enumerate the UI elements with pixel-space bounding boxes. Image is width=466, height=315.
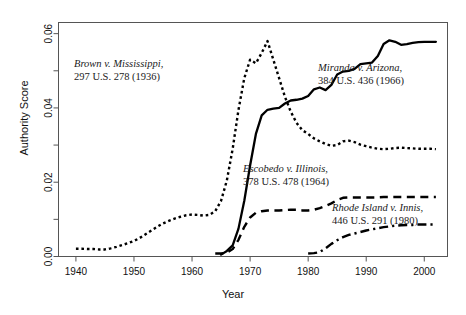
y-axis-label: Authority Score [18, 72, 30, 164]
x-tick-label: 1960 [181, 266, 204, 277]
x-tick-label: 1990 [355, 266, 378, 277]
annotation-case-name: Miranda v. Arizona, [318, 62, 404, 75]
x-tick-label: 1940 [65, 266, 88, 277]
annotation-case-name: Rhode Island v. Innis, [332, 202, 423, 215]
x-tick-label: 1950 [123, 266, 146, 277]
x-tick-label: 2000 [413, 266, 436, 277]
y-tick-label: 0.06 [43, 23, 54, 43]
annotation-case-name: Escobedo v. Illinois, [243, 163, 329, 176]
plot-canvas: 1940195019601970198019902000 0.000.020.0… [0, 0, 466, 315]
y-tick-label: 0.04 [43, 98, 54, 118]
annotation-citation: 378 U.S. 478 (1964) [243, 176, 329, 189]
x-axis-label: Year [0, 288, 466, 300]
annotation-citation: 384 U.S. 436 (1966) [318, 75, 404, 88]
annotation-rhode-island-v-innis: Rhode Island v. Innis, 446 U.S. 291 (198… [332, 202, 423, 227]
x-tick-label: 1980 [297, 266, 320, 277]
y-tick-label: 0.00 [43, 246, 54, 266]
annotation-citation: 446 U.S. 291 (1980) [332, 215, 423, 228]
y-tick-label: 0.02 [43, 172, 54, 192]
annotation-citation: 297 U.S. 278 (1936) [74, 71, 163, 84]
annotation-case-name: Brown v. Mississippi, [74, 58, 163, 71]
annotation-miranda-v-arizona: Miranda v. Arizona, 384 U.S. 436 (1966) [318, 62, 404, 87]
annotation-brown-v-mississippi: Brown v. Mississippi, 297 U.S. 278 (1936… [74, 58, 163, 83]
authority-score-chart: 1940195019601970198019902000 0.000.020.0… [0, 0, 466, 315]
annotation-escobedo-v-illinois: Escobedo v. Illinois, 378 U.S. 478 (1964… [243, 163, 329, 188]
x-tick-label: 1970 [239, 266, 262, 277]
